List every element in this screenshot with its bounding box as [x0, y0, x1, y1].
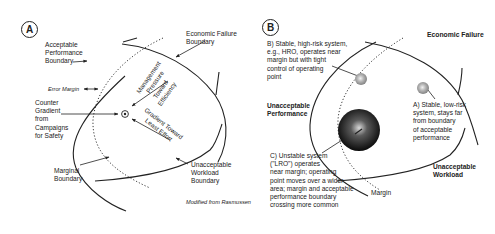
hro-note: B) Stable, high-risk system, e.g., HRO, … — [267, 40, 347, 81]
unacceptable-workload-boundary-label: Unacceptable Workload Boundary — [191, 161, 231, 186]
hro-operating-point-icon — [355, 73, 367, 85]
economic-failure-boundary-label: Economic Failure Boundary — [186, 30, 237, 46]
acceptable-performance-boundary-label: Acceptable Performance Boundary — [45, 41, 83, 66]
low-risk-operating-point-icon — [417, 82, 429, 94]
economic-failure-label: Economic Failure — [427, 31, 484, 39]
unacceptable-performance-label: Unacceptable Performance — [267, 102, 310, 118]
unstable-note: C) Unstable system ("LRO") operates near… — [270, 152, 354, 209]
panel-b-badge: B — [262, 19, 279, 36]
marginal-boundary-label: Marginal Boundary — [54, 167, 82, 183]
acceptable-performance-boundary-line — [73, 76, 126, 211]
low-risk-note: A) Stable, low-risk system, stays far fr… — [413, 101, 466, 142]
unacceptable-workload-label: Unacceptable Workload — [433, 163, 476, 179]
margin-label: Margin — [371, 189, 391, 197]
error-margin-label: Error Margin — [48, 85, 79, 93]
panel-a-badge: A — [21, 21, 38, 38]
credit-label: Modified from Rasmussen — [186, 198, 251, 206]
unstable-operating-area-icon — [338, 109, 380, 151]
counter-gradient-label: Counter Gradient from Campaigns for Safe… — [35, 99, 68, 140]
